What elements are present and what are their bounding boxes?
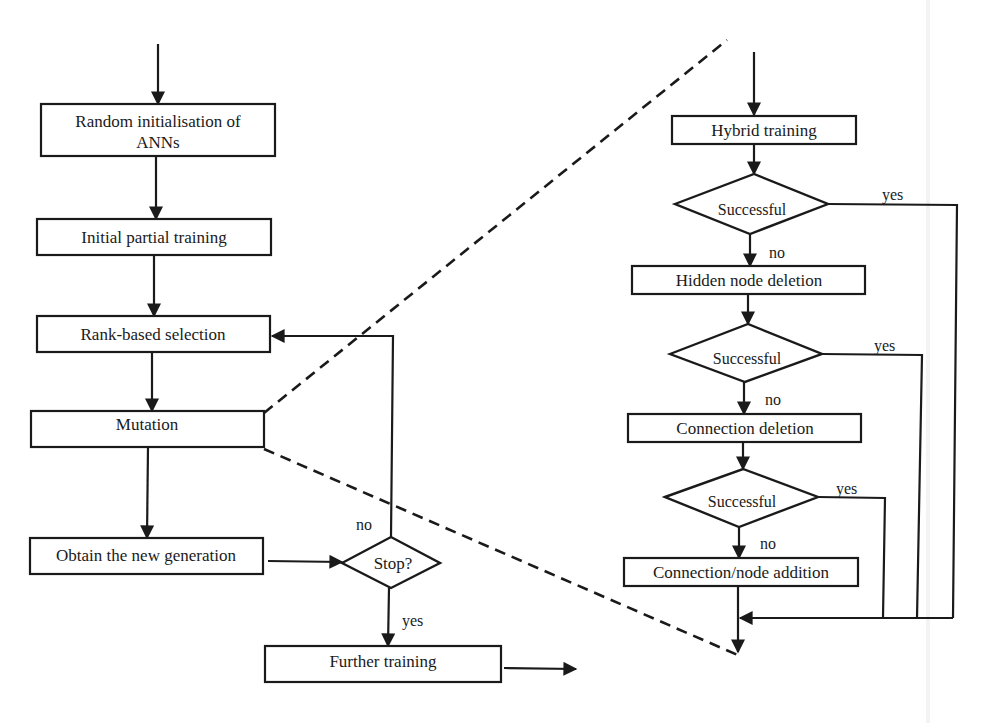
further-training-label: Further training xyxy=(329,652,437,671)
box-random-initialisation[interactable]: Random initialisation of ANNs xyxy=(41,104,275,156)
box-hybrid-training[interactable]: Hybrid training xyxy=(672,116,856,144)
decision-3-label: Successful xyxy=(708,493,777,510)
box-obtain-new-generation[interactable]: Obtain the new generation xyxy=(30,538,263,574)
connection-deletion-label: Connection deletion xyxy=(676,419,814,438)
hidden-node-deletion-label: Hidden node deletion xyxy=(676,271,823,290)
initial-partial-training-label: Initial partial training xyxy=(81,228,227,247)
right-flowchart: Hybrid training Successful yes no Hidden… xyxy=(624,52,957,652)
mutation-label: Mutation xyxy=(116,415,179,434)
decision-stop[interactable]: Stop? xyxy=(342,537,440,588)
dec2-yes-label: yes xyxy=(874,337,895,355)
decision-2-label: Successful xyxy=(713,350,782,367)
box-initial-partial-training[interactable]: Initial partial training xyxy=(37,219,271,255)
box-connection-deletion[interactable]: Connection deletion xyxy=(628,414,861,442)
decision-successful-1[interactable]: Successful xyxy=(675,174,828,234)
box-mutation[interactable]: Mutation xyxy=(31,411,264,447)
rank-based-selection-label: Rank-based selection xyxy=(81,325,226,344)
dec3-yes-label: yes xyxy=(836,480,857,498)
flowchart-canvas: Random initialisation of ANNs Initial pa… xyxy=(0,0,985,723)
hybrid-training-label: Hybrid training xyxy=(711,121,817,140)
exit-arrow xyxy=(504,668,576,669)
dec1-no-label: no xyxy=(769,244,785,261)
arrow-stop-yes xyxy=(388,588,389,646)
stop-yes-label: yes xyxy=(402,612,423,630)
stop-no-label: no xyxy=(356,516,372,533)
dec3-no-label: no xyxy=(760,535,776,552)
box-further-training[interactable]: Further training xyxy=(265,646,501,682)
obtain-new-generation-label: Obtain the new generation xyxy=(56,546,236,565)
dec2-no-label: no xyxy=(765,391,781,408)
arrow-mutation-to-obtain xyxy=(147,447,148,538)
stop-decision-label: Stop? xyxy=(374,554,413,573)
decision-successful-2[interactable]: Successful xyxy=(670,324,822,382)
random-init-line2: ANNs xyxy=(136,133,179,152)
decision-successful-3[interactable]: Successful xyxy=(665,469,818,527)
zoom-line-bottom xyxy=(264,449,740,656)
dec1-yes-label: yes xyxy=(882,186,903,204)
connection-node-addition-label: Connection/node addition xyxy=(653,563,830,582)
arrow-obtain-to-stop xyxy=(268,561,342,562)
left-flowchart: Random initialisation of ANNs Initial pa… xyxy=(30,44,576,682)
arrow-stop-no-loop xyxy=(272,336,393,537)
box-rank-based-selection[interactable]: Rank-based selection xyxy=(37,316,270,352)
box-connection-node-addition[interactable]: Connection/node addition xyxy=(624,558,858,586)
random-init-line1: Random initialisation of xyxy=(75,112,241,131)
zoom-line-top xyxy=(264,40,727,413)
decision-1-label: Successful xyxy=(718,201,787,218)
box-hidden-node-deletion[interactable]: Hidden node deletion xyxy=(632,266,865,294)
